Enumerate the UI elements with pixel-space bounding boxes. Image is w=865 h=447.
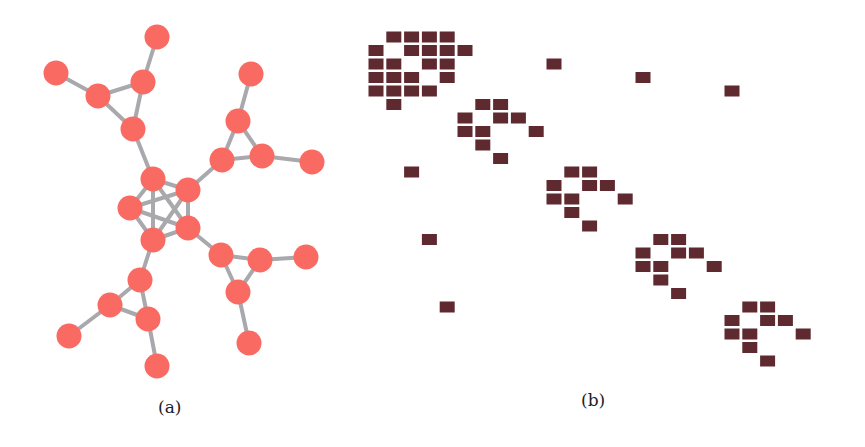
matrix-cell <box>636 261 651 272</box>
matrix-cell <box>689 248 704 259</box>
matrix-cell <box>547 59 562 70</box>
matrix-cell <box>404 45 419 56</box>
panel-a-caption: (a) <box>158 397 181 417</box>
matrix-cell <box>440 59 455 70</box>
graph-node <box>226 280 251 305</box>
matrix-cell <box>369 86 384 97</box>
matrix-cell <box>653 261 668 272</box>
matrix-cell <box>742 329 757 340</box>
panel-b-caption: (b) <box>581 390 605 410</box>
matrix-cell <box>725 329 740 340</box>
matrix-cell <box>742 302 757 313</box>
matrix-cell <box>422 32 437 43</box>
graph-node <box>141 228 166 253</box>
graph-node <box>210 148 235 173</box>
matrix-cell <box>653 234 668 245</box>
matrix-cell <box>582 221 597 232</box>
graph-node <box>294 245 319 270</box>
adjacency-matrix <box>369 32 811 367</box>
matrix-cell <box>369 59 384 70</box>
matrix-cell <box>440 32 455 43</box>
matrix-cell <box>404 167 419 178</box>
matrix-cell <box>386 86 401 97</box>
matrix-cell <box>547 194 562 205</box>
matrix-cell <box>440 45 455 56</box>
matrix-cell <box>386 32 401 43</box>
matrix-cell <box>564 167 579 178</box>
matrix-cell <box>475 99 490 110</box>
graph-node <box>226 109 251 134</box>
matrix-cell <box>671 234 686 245</box>
graph-node <box>145 25 170 50</box>
figure-canvas <box>0 0 865 447</box>
matrix-cell <box>404 86 419 97</box>
matrix-cell <box>547 180 562 191</box>
matrix-cell <box>582 167 597 178</box>
graph-node <box>176 216 201 241</box>
graph-node <box>136 307 161 332</box>
graph-node <box>121 117 146 142</box>
matrix-cell <box>796 329 811 340</box>
graph-node <box>237 331 262 356</box>
matrix-cell <box>760 302 775 313</box>
matrix-cell <box>475 126 490 137</box>
matrix-cell <box>636 248 651 259</box>
matrix-cell <box>707 261 722 272</box>
graph-node <box>176 178 201 203</box>
graph-node <box>250 144 275 169</box>
matrix-cell <box>440 302 455 313</box>
matrix-cell <box>422 59 437 70</box>
matrix-cell <box>475 140 490 151</box>
matrix-cell <box>725 86 740 97</box>
matrix-cell <box>369 72 384 83</box>
matrix-cell <box>760 315 775 326</box>
graph-node <box>131 70 156 95</box>
matrix-cell <box>422 86 437 97</box>
matrix-cell <box>493 99 508 110</box>
matrix-cell <box>600 180 615 191</box>
matrix-cell <box>564 194 579 205</box>
graph-node <box>145 354 170 379</box>
matrix-cell <box>671 248 686 259</box>
matrix-cell <box>422 45 437 56</box>
graph-node <box>98 293 123 318</box>
matrix-cell <box>493 153 508 164</box>
matrix-cell <box>618 194 633 205</box>
graph-node <box>141 167 166 192</box>
graph-node <box>300 150 325 175</box>
matrix-cell <box>778 315 793 326</box>
matrix-cell <box>422 234 437 245</box>
graph-node <box>86 84 111 109</box>
matrix-cell <box>458 113 473 124</box>
matrix-cell <box>760 356 775 367</box>
matrix-cell <box>671 288 686 299</box>
graph-node <box>239 62 264 87</box>
matrix-cell <box>458 45 473 56</box>
matrix-cell <box>440 72 455 83</box>
matrix-cell <box>582 180 597 191</box>
matrix-cell <box>742 342 757 353</box>
matrix-cell <box>653 275 668 286</box>
matrix-cell <box>386 72 401 83</box>
graph-node <box>44 61 69 86</box>
matrix-cell <box>404 32 419 43</box>
matrix-cell <box>458 126 473 137</box>
matrix-cell <box>564 207 579 218</box>
matrix-cell <box>404 72 419 83</box>
graph-node <box>128 268 153 293</box>
matrix-cell <box>511 113 526 124</box>
graph-node <box>209 243 234 268</box>
matrix-cell <box>725 315 740 326</box>
matrix-cell <box>369 45 384 56</box>
matrix-cell <box>636 72 651 83</box>
matrix-cell <box>529 126 544 137</box>
graph-node <box>248 248 273 273</box>
graph-node <box>57 324 82 349</box>
matrix-cell <box>386 99 401 110</box>
matrix-cell <box>493 113 508 124</box>
matrix-cell <box>386 59 401 70</box>
graph-node <box>118 196 143 221</box>
